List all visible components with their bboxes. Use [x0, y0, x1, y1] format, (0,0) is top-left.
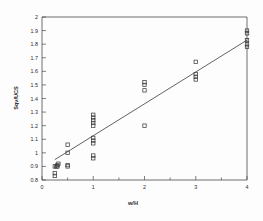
y-axis-ticks: 0.80.911.11.21.31.41.51.61.71.81.92 [31, 14, 47, 183]
y-tick-label: 1.1 [31, 136, 39, 142]
chart-figure: 01234 0.80.911.11.21.31.41.51.61.71.81.9… [0, 0, 263, 221]
y-tick-label: 2 [35, 14, 38, 20]
data-point-marker [66, 143, 69, 146]
y-tick-label: 0.9 [31, 163, 39, 169]
data-point-marker [143, 89, 146, 92]
y-tick-label: 1.2 [31, 123, 39, 129]
y-tick-label: 1.6 [31, 68, 39, 74]
x-tick-label: 0 [41, 184, 44, 190]
x-tick-label: 4 [246, 184, 249, 190]
x-tick-label: 1 [92, 184, 95, 190]
x-axis-label: w/H [127, 200, 138, 206]
x-tick-label: 3 [194, 184, 197, 190]
data-point-marker [194, 60, 197, 63]
trend-line [55, 40, 247, 160]
y-tick-label: 1.3 [31, 109, 39, 115]
y-tick-label: 1.8 [31, 41, 39, 47]
y-tick-label: 1.7 [31, 55, 39, 61]
data-points [53, 29, 249, 178]
y-tick-label: 1.5 [31, 82, 39, 88]
y-axis-label: Sqv/UCS [13, 86, 19, 110]
y-tick-label: 1.9 [31, 28, 39, 34]
y-tick-label: 1.4 [31, 96, 39, 102]
x-axis-ticks: 01234 [41, 176, 249, 190]
y-tick-label: 1 [35, 150, 38, 156]
x-tick-label: 2 [143, 184, 146, 190]
scatter-plot: 01234 0.80.911.11.21.31.41.51.61.71.81.9… [0, 0, 263, 221]
data-point-marker [143, 124, 146, 127]
plot-frame [42, 17, 247, 180]
y-tick-label: 0.8 [31, 177, 39, 183]
